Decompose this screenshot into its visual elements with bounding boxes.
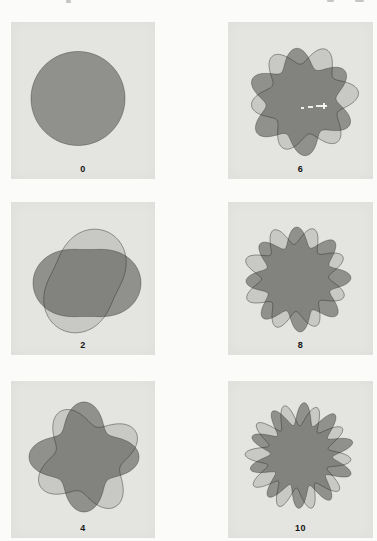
panel-label: 0 <box>11 164 155 174</box>
cropped-text-remnant <box>327 0 334 2</box>
shape-canvas <box>228 202 373 355</box>
cropped-text-remnant <box>355 0 364 2</box>
stimulus-panel-8-lobes: 8 <box>228 202 373 355</box>
panel-label: 2 <box>11 340 155 350</box>
stimulus-panel-0-lobes: 0 <box>11 22 155 179</box>
stimulus-panel-10-lobes: 10 <box>228 381 373 538</box>
scan-artifact <box>321 105 327 107</box>
shape-canvas <box>11 381 155 538</box>
shape-canvas <box>228 381 373 538</box>
stimulus-panel-2-lobes: 2 <box>11 202 155 355</box>
scan-artifact <box>301 107 304 109</box>
dark-shape <box>31 52 125 146</box>
shape-canvas <box>228 22 373 179</box>
panel-label: 8 <box>228 340 373 350</box>
panel-label: 6 <box>228 164 373 174</box>
scanned-figure-page: 0 6 2 8 4 10 <box>0 0 377 541</box>
cropped-text-remnant <box>66 0 71 3</box>
stimulus-panel-6-lobes: 6 <box>228 22 373 179</box>
light-shape <box>39 410 138 509</box>
shape-canvas <box>11 202 155 355</box>
light-shape <box>44 229 126 333</box>
panel-label: 4 <box>11 523 155 533</box>
scan-artifact <box>308 106 313 108</box>
panel-label: 10 <box>228 523 373 533</box>
shape-canvas <box>11 22 155 179</box>
stimulus-panel-4-lobes: 4 <box>11 381 155 538</box>
